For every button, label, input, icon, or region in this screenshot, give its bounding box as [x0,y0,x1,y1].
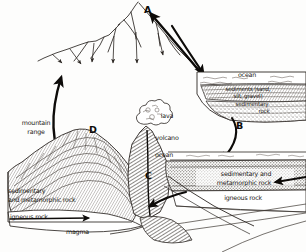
key-label-B: B [236,120,243,131]
label-magma: magma [66,229,112,236]
arrow-to-ocean [172,26,203,73]
label-ocean-upper: ocean [0,72,306,79]
label-sedimentary-rock-line1: sedimentary [204,102,300,108]
label-mountain-range-line1: mountain [6,120,66,127]
label-sediments-line2: silt, gravel) [200,94,296,100]
key-label-C: C [145,170,152,181]
label-sedimentary-rock-line2: rock [216,109,306,115]
label-igneous-rock-right: igneous rock [198,195,288,202]
label-sed-meta-left-line2: and metamorphic rock [8,197,120,204]
erosion-arrows [52,32,163,64]
label-lava: lava [150,113,184,120]
label-ocean-mid: ocean [146,152,182,159]
label-mountain-range-line2: range [6,129,66,136]
label-sediments-line1: sediments (sand, [200,87,296,93]
mountain-range-mass [8,129,138,222]
label-sed-meta-right-line2: metamorphic rock [196,180,292,187]
key-label-A: A [144,4,151,15]
rock-cycle-diagram: ocean sediments (sand, silt, gravel) sed… [0,0,306,252]
peak-outline [38,2,199,69]
label-sed-meta-right-line1: sedimentary and [198,171,294,178]
label-sed-meta-left-line1: sedimentary [8,188,82,195]
label-igneous-rock-left: igneous rock [10,214,84,221]
magma-chamber [140,216,192,243]
ocean-basin-lower [168,152,306,160]
label-volcano: volcano [146,135,188,142]
key-label-D: D [89,124,97,135]
